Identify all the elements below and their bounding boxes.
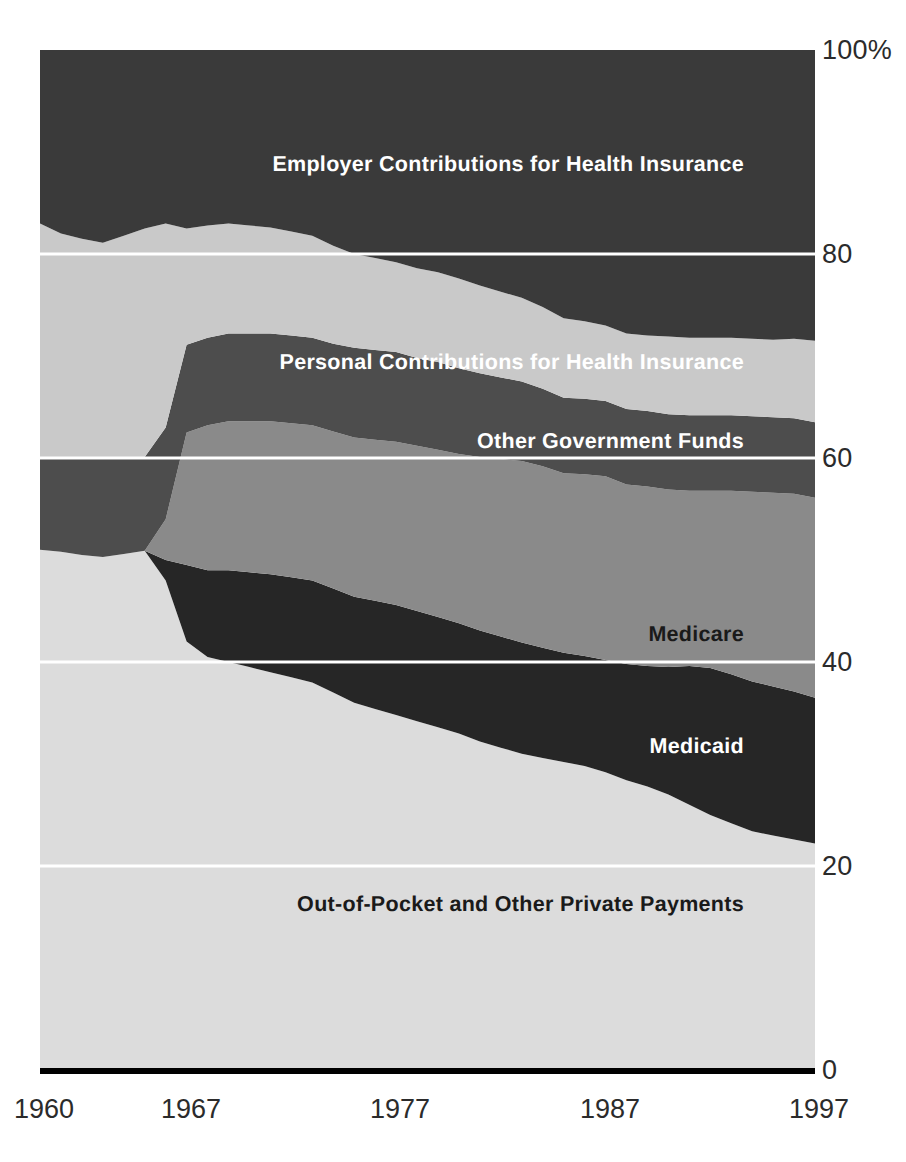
- series-label-medicaid: Medicaid: [650, 734, 744, 759]
- series-label-employer-contributions: Employer Contributions for Health Insura…: [272, 152, 744, 177]
- series-label-medicare: Medicare: [648, 622, 744, 647]
- x-tick-label-1987: 1987: [580, 1094, 640, 1125]
- chart-canvas: 100% 80 60 40 20 0 1960 1967 1977 1987 1…: [0, 0, 906, 1162]
- series-label-personal-contributions: Personal Contributions for Health Insura…: [280, 350, 744, 375]
- x-tick-label-1960: 1960: [14, 1094, 74, 1125]
- y-tick-label-0: 0: [822, 1055, 837, 1086]
- series-label-out-of-pocket: Out-of-Pocket and Other Private Payments: [297, 892, 744, 917]
- y-tick-label-40: 40: [822, 647, 852, 678]
- axis-baseline: [40, 1068, 815, 1074]
- x-tick-label-1997: 1997: [789, 1094, 849, 1125]
- stacked-area-plot: [40, 50, 815, 1070]
- x-tick-label-1977: 1977: [370, 1094, 430, 1125]
- y-tick-label-20: 20: [822, 851, 852, 882]
- y-tick-label-80: 80: [822, 239, 852, 270]
- x-tick-label-1967: 1967: [161, 1094, 221, 1125]
- series-label-other-government-funds: Other Government Funds: [477, 429, 744, 454]
- area-series-svg: [40, 50, 815, 1070]
- y-tick-label-60: 60: [822, 443, 852, 474]
- y-tick-label-100: 100%: [822, 35, 892, 66]
